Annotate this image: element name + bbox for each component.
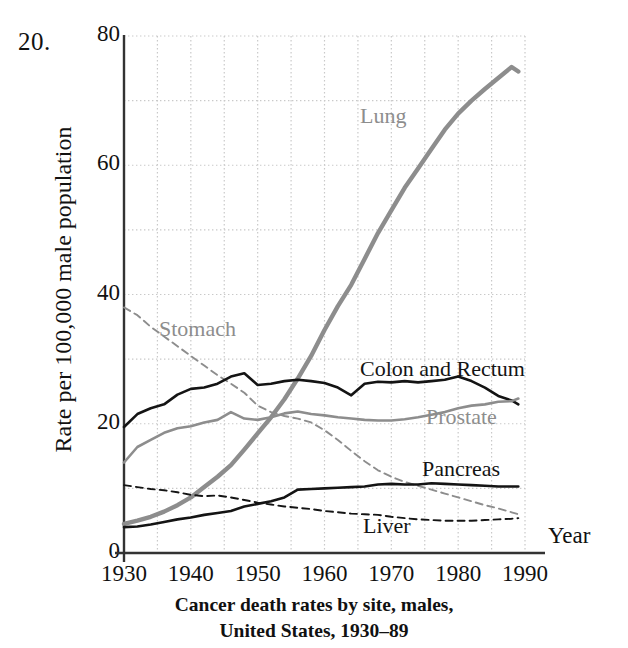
figure-caption: Cancer death rates by site, males, Unite… — [0, 592, 628, 643]
series-label-colon: Colon and Rectum — [360, 356, 525, 382]
chart-plot-area — [0, 0, 628, 648]
series-label-lung: Lung — [360, 103, 406, 129]
x-tick-label: 1990 — [485, 561, 565, 587]
caption-line-2: United States, 1930–89 — [0, 618, 628, 644]
series-label-prostate: Prostate — [426, 404, 497, 430]
series-label-pancreas: Pancreas — [422, 456, 500, 482]
figure-cancer-death-rates: 20. Rate per 100,000 male population 020… — [0, 0, 628, 648]
caption-line-1: Cancer death rates by site, males, — [0, 592, 628, 618]
series-label-liver: Liver — [363, 513, 411, 539]
series-label-stomach: Stomach — [159, 316, 236, 342]
x-axis-label: Year — [548, 523, 590, 549]
